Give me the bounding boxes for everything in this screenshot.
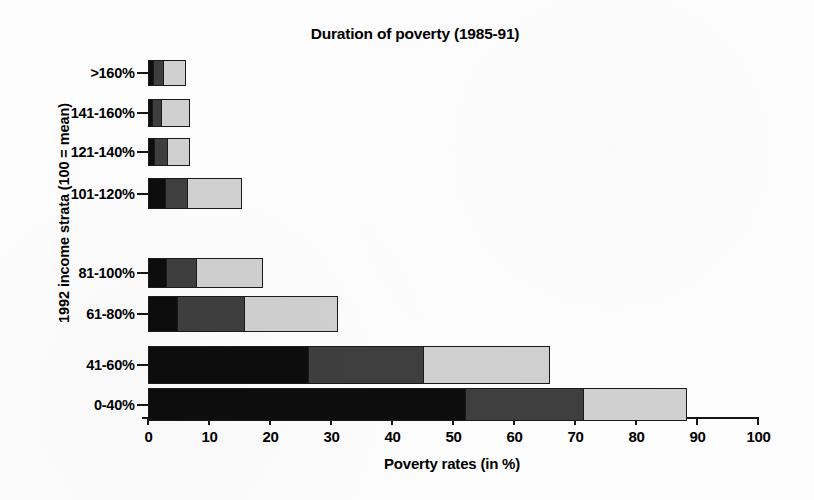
- y-tick-label-160: >160%: [90, 65, 134, 81]
- plot-area: 0102030405060708090100 >160%141-160%121-…: [148, 36, 758, 418]
- x-tick-label-60: 60: [485, 428, 545, 445]
- x-tick-label-70: 70: [546, 428, 606, 445]
- stacked-bar: [148, 296, 339, 332]
- x-tick-label-30: 30: [302, 428, 362, 445]
- y-tick-label-0-40: 0-40%: [94, 397, 134, 413]
- bar-segment-long-duration: [149, 297, 177, 331]
- stacked-bar: [148, 346, 551, 384]
- x-tick-label-50: 50: [424, 428, 484, 445]
- bar-segment-long-duration: [149, 389, 465, 420]
- y-axis-title: 1992 income strata (100 = mean): [56, 53, 72, 373]
- y-tick-label-41-60: 41-60%: [86, 357, 134, 373]
- y-tick: [137, 151, 149, 153]
- x-tick-label-0: 0: [119, 428, 179, 445]
- y-tick: [137, 112, 149, 114]
- stacked-bar: [148, 99, 191, 127]
- bar-segment-medium-duration: [153, 61, 163, 85]
- bar-segment-short-duration: [583, 389, 686, 420]
- bar-segment-medium-duration: [465, 389, 584, 420]
- x-axis-title: Poverty rates (in %): [147, 455, 757, 472]
- x-tick-90: [696, 417, 698, 425]
- bar-segment-medium-duration: [152, 100, 161, 126]
- stacked-bar: [148, 388, 688, 421]
- y-tick: [137, 72, 149, 74]
- bar-segment-long-duration: [149, 347, 309, 383]
- bar-segment-short-duration: [244, 297, 338, 331]
- x-tick-label-10: 10: [180, 428, 240, 445]
- y-tick-label-101-120: 101-120%: [71, 186, 135, 202]
- y-tick: [137, 193, 149, 195]
- stacked-bar: [148, 178, 243, 209]
- x-tick-label-20: 20: [241, 428, 301, 445]
- stacked-bar: [148, 60, 186, 86]
- bar-segment-short-duration: [161, 100, 189, 126]
- y-tick: [137, 313, 149, 315]
- bar-segment-short-duration: [196, 259, 262, 287]
- y-tick-label-121-140: 121-140%: [71, 144, 135, 160]
- x-tick-label-80: 80: [607, 428, 667, 445]
- y-tick: [137, 272, 149, 274]
- bar-segment-short-duration: [167, 139, 189, 165]
- bar-segment-short-duration: [187, 179, 241, 208]
- bar-segment-short-duration: [423, 347, 549, 383]
- bar-segment-medium-duration: [308, 347, 423, 383]
- y-tick: [137, 364, 149, 366]
- x-tick-100: [757, 417, 759, 425]
- bar-segment-medium-duration: [154, 139, 167, 165]
- bar-segment-short-duration: [163, 61, 185, 85]
- stacked-bar: [148, 138, 191, 166]
- bar-segment-long-duration: [149, 259, 167, 287]
- y-tick: [137, 404, 149, 406]
- bar-segment-medium-duration: [166, 259, 196, 287]
- x-tick-label-40: 40: [363, 428, 423, 445]
- x-tick-label-90: 90: [668, 428, 728, 445]
- poverty-duration-chart-figure: Duration of poverty (1985-91) 1992 incom…: [0, 0, 814, 500]
- bar-segment-medium-duration: [177, 297, 244, 331]
- stacked-bar: [148, 258, 264, 288]
- y-tick-label-61-80: 61-80%: [86, 306, 134, 322]
- bar-segment-long-duration: [149, 179, 166, 208]
- y-tick-label-81-100: 81-100%: [79, 265, 135, 281]
- x-tick-label-100: 100: [729, 428, 789, 445]
- y-tick-label-141-160: 141-160%: [71, 105, 135, 121]
- bar-segment-medium-duration: [165, 179, 187, 208]
